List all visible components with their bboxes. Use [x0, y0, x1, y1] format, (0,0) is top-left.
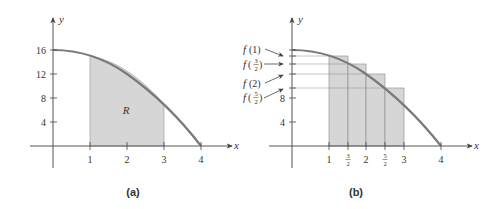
x-tick-label-4: 4	[199, 154, 204, 165]
svg-text:f: f	[243, 77, 248, 89]
caption-b: (b)	[349, 186, 363, 198]
svg-text:5: 5	[254, 90, 257, 97]
svg-text:): )	[259, 92, 262, 104]
svg-text:3: 3	[254, 57, 257, 64]
rect-f3-2	[348, 64, 366, 146]
y-ticks	[50, 50, 57, 122]
svg-text:3: 3	[346, 152, 349, 159]
svg-text:): )	[259, 59, 262, 71]
x-tick-label-2: 2	[125, 154, 130, 165]
x-tick-label-3-2: 3 2	[346, 152, 351, 167]
x-tick-label-1: 1	[327, 154, 332, 165]
y-tick-label-4: 4	[280, 117, 285, 128]
f-label-5-2: f ( 5 2 )	[243, 89, 283, 105]
x-axis-label: x	[473, 139, 479, 151]
svg-text:2: 2	[254, 98, 257, 105]
y-tick-label-16: 16	[36, 45, 46, 56]
y-ticks	[289, 50, 296, 122]
panel-a: 16 12 8 4 1 2 3 4 y x R (a)	[30, 13, 239, 198]
f-label-2: f (2)	[243, 75, 283, 90]
y-tick-label-8: 8	[280, 93, 285, 104]
y-axis-label: y	[58, 13, 64, 25]
x-tick-label-3: 3	[402, 154, 407, 165]
caption-a: (a)	[126, 186, 140, 198]
region-r-label: R	[122, 104, 130, 116]
svg-text:(2): (2)	[249, 78, 261, 90]
f-label-1: f (1)	[243, 43, 283, 56]
x-axis-label: x	[233, 139, 239, 151]
region-r-fill	[90, 56, 164, 146]
x-tick-label-4: 4	[439, 154, 444, 165]
svg-text:(: (	[248, 92, 252, 104]
svg-text:(1): (1)	[249, 44, 261, 56]
svg-text:2: 2	[383, 160, 386, 167]
figure: 16 12 8 4 1 2 3 4 y x R (a)	[0, 0, 498, 209]
svg-text:(: (	[248, 59, 252, 71]
svg-text:5: 5	[383, 152, 386, 159]
svg-text:f: f	[243, 43, 248, 55]
y-tick-label-4: 4	[41, 117, 46, 128]
panel-b: 8 4 1 3 2 2 5 2 3 4 y x f (	[243, 13, 479, 198]
x-tick-label-3: 3	[162, 154, 167, 165]
riemann-rectangles	[329, 56, 404, 146]
rect-f1	[329, 56, 348, 146]
f-label-3-2: f ( 3 2 )	[243, 57, 283, 72]
x-tick-label-5-2: 5 2	[383, 152, 388, 167]
svg-text:2: 2	[346, 160, 349, 167]
y-axis-label: y	[297, 13, 303, 25]
y-tick-label-12: 12	[36, 69, 46, 80]
x-tick-label-2: 2	[364, 154, 369, 165]
x-tick-label-1: 1	[88, 154, 93, 165]
y-tick-label-8: 8	[41, 93, 46, 104]
svg-text:2: 2	[254, 65, 257, 72]
